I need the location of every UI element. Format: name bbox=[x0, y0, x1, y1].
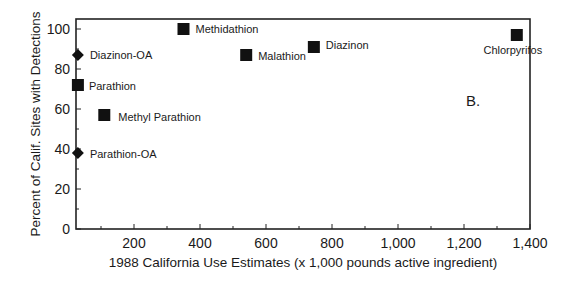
y-tick-label: 80 bbox=[54, 61, 70, 77]
point-label-methidathion: Methidathion bbox=[196, 23, 259, 35]
x-tick-label: 400 bbox=[188, 235, 212, 251]
x-tick-label: 200 bbox=[122, 235, 146, 251]
diamond-marker-diazinon-oa bbox=[72, 49, 84, 61]
x-tick-label: 800 bbox=[320, 235, 344, 251]
square-marker-parathion bbox=[72, 79, 84, 91]
square-marker-malathion bbox=[240, 49, 252, 61]
y-tick-label: 0 bbox=[62, 221, 70, 237]
square-marker-methyl-parathion bbox=[98, 109, 110, 121]
point-label-chlorpyrifos: Chlorpyrifos bbox=[483, 44, 542, 56]
square-marker-methidathion bbox=[178, 23, 190, 35]
x-axis-title: 1988 California Use Estimates (x 1,000 p… bbox=[109, 255, 498, 270]
square-marker-diazinon bbox=[308, 41, 320, 53]
point-label-parathion: Parathion bbox=[89, 80, 136, 92]
x-tick-label: 1,000 bbox=[380, 235, 415, 251]
square-marker-chlorpyrifos bbox=[511, 29, 523, 41]
y-tick-label: 60 bbox=[54, 101, 70, 117]
x-tick-label: 1,400 bbox=[512, 235, 547, 251]
point-label-methyl-parathion: Methyl Parathion bbox=[118, 111, 201, 123]
scatter-chart: 020406080100 2004006008001,0001,2001,400… bbox=[0, 0, 574, 283]
y-tick-label: 100 bbox=[47, 21, 71, 37]
diamond-marker-parathion-oa bbox=[72, 147, 84, 159]
y-axis-title: Percent of Calif. Sites with Detections bbox=[28, 11, 43, 236]
point-label-diazinon: Diazinon bbox=[326, 39, 369, 51]
panel-label: B. bbox=[466, 92, 480, 109]
x-axis: 2004006008001,0001,2001,400 bbox=[101, 224, 548, 251]
y-tick-label: 20 bbox=[54, 181, 70, 197]
x-tick-label: 1,200 bbox=[446, 235, 481, 251]
point-label-parathion-oa: Parathion-OA bbox=[90, 148, 157, 160]
x-tick-label: 600 bbox=[254, 235, 278, 251]
point-label-diazinon-oa: Diazinon-OA bbox=[90, 49, 153, 61]
y-tick-label: 40 bbox=[54, 141, 70, 157]
point-label-malathion: Malathion bbox=[258, 50, 306, 62]
